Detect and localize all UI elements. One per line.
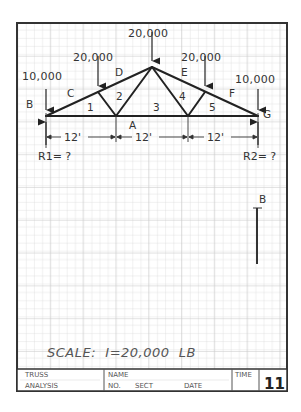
space-label-e: E bbox=[181, 66, 188, 78]
scale-label: SCALE: I=20,000 LB bbox=[47, 345, 196, 360]
space-label-d: D bbox=[115, 66, 123, 78]
space-label-b: B bbox=[26, 98, 33, 110]
load-value-left-end: 10,000 bbox=[22, 70, 62, 83]
panel-label-3: 3 bbox=[153, 101, 160, 113]
truss-analysis-sheet: 10,000 20,000 20,000 20,000 10,000 B C D… bbox=[0, 0, 301, 412]
force-diagram-label-b: B bbox=[259, 193, 266, 205]
title-block: TRUSS ANALYSIS NAME NO. SECT DATE TIME 1… bbox=[17, 369, 287, 393]
panel-label-5: 5 bbox=[209, 101, 216, 113]
span-dimension-1: 12' bbox=[64, 131, 81, 144]
sheet-number: 11 bbox=[264, 375, 285, 393]
span-dimension-2: 12' bbox=[135, 131, 152, 144]
number-label: NO. bbox=[108, 382, 121, 390]
space-label-g: G bbox=[263, 108, 271, 120]
space-label-a: A bbox=[129, 119, 137, 131]
name-label: NAME bbox=[108, 371, 129, 379]
panel-label-1: 1 bbox=[87, 101, 94, 113]
date-label: DATE bbox=[184, 382, 202, 390]
space-label-f: F bbox=[229, 87, 235, 99]
title-truss: TRUSS bbox=[24, 371, 49, 379]
panel-label-2: 2 bbox=[116, 90, 123, 102]
load-value-left-mid: 20,000 bbox=[73, 51, 113, 64]
time-label: TIME bbox=[234, 371, 252, 379]
reaction-label-r2: R2= ? bbox=[243, 150, 276, 163]
section-label: SECT bbox=[135, 382, 154, 390]
span-dimension-3: 12' bbox=[207, 131, 224, 144]
reaction-label-r1: R1= ? bbox=[38, 150, 71, 163]
panel-label-4: 4 bbox=[179, 90, 186, 102]
load-value-right-end: 10,000 bbox=[235, 73, 275, 86]
load-value-right-mid: 20,000 bbox=[181, 51, 221, 64]
title-analysis: ANALYSIS bbox=[25, 382, 59, 390]
load-value-apex: 20,000 bbox=[128, 27, 168, 40]
space-label-c: C bbox=[67, 87, 74, 99]
